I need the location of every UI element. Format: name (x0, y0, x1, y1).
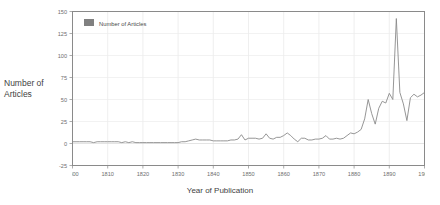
chart-figure: Number of Articles 180018101820183018401… (0, 0, 440, 205)
y-tick-label: 25 (61, 119, 67, 125)
y-axis-ticks: -250255075100125150 (0, 5, 72, 170)
legend-swatch-number-of-articles (84, 19, 94, 26)
plot-area: 1800181018201830184018501860187018801890… (72, 11, 425, 166)
x-tick-label: 1870 (313, 171, 325, 177)
x-tick-label: 1840 (207, 171, 219, 177)
y-tick-label: 150 (58, 9, 67, 15)
x-tick-label: 1860 (277, 171, 289, 177)
line-chart-svg (72, 11, 425, 166)
legend-label-number-of-articles: Number of Articles (99, 21, 146, 27)
y-tick-label: -25 (59, 163, 67, 169)
x-tick-label: 1850 (242, 171, 254, 177)
legend: Number of Articles (84, 16, 204, 32)
x-tick-label: 1830 (172, 171, 184, 177)
x-tick-label: 1820 (137, 171, 149, 177)
x-tick-label: 1810 (101, 171, 113, 177)
x-tick-label: 1900 (418, 171, 425, 177)
x-tick-label: 1800 (72, 171, 79, 177)
y-tick-label: 100 (58, 53, 67, 59)
x-tick-label: 1880 (348, 171, 360, 177)
y-tick-label: 50 (61, 97, 67, 103)
y-tick-label: 75 (61, 75, 67, 81)
x-tick-label: 1890 (383, 171, 395, 177)
y-tick-label: 125 (58, 31, 67, 37)
x-axis-title: Year of Publication (0, 186, 440, 195)
y-tick-label: 0 (64, 141, 67, 147)
